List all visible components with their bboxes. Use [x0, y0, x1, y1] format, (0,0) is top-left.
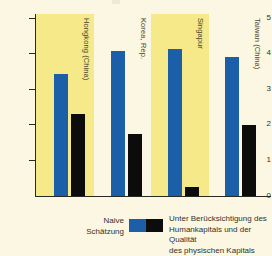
y-tick-mark-2: [29, 124, 35, 125]
y-tick-mark-1: [29, 160, 35, 161]
bar-singapur-adjusted: [185, 187, 199, 196]
legend-label-naive-line-2: Schätzung: [52, 227, 124, 238]
bar-taiwan-adjusted: [242, 125, 256, 196]
legend-label-adjusted-line-1: Unter Berücksichtigung des: [169, 214, 271, 225]
x-axis-line: [35, 196, 271, 197]
y-tick-label-3: 3: [249, 85, 271, 93]
legend-swatch-adjusted: [146, 219, 163, 232]
bar-singapur-naive: [168, 49, 182, 196]
bar-hongkong-adjusted: [71, 114, 85, 196]
y-tick-mark-4: [29, 53, 35, 54]
bar-hongkong-naive: [54, 74, 68, 196]
y-tick-mark-3: [29, 89, 35, 90]
legend-swatch-naive: [129, 219, 146, 232]
bar-korea-adjusted: [128, 134, 142, 196]
bar-korea-naive: [111, 51, 125, 196]
top-edge-clip-artifact: [112, 0, 120, 4]
category-label-hongkong: Hongkong (China): [82, 18, 91, 80]
legend-label-naive: Naive Schätzung: [52, 216, 124, 237]
chart-legend: Naive Schätzung Unter Berücksichtigung d…: [0, 213, 271, 253]
y-axis-line: [35, 14, 36, 197]
legend-label-adjusted-line-3: des physischen Kapitals: [169, 246, 271, 256]
y-axis-title: Prozent: [0, 77, 1, 104]
legend-label-adjusted: Unter Berücksichtigung des Humankapitals…: [169, 214, 271, 256]
legend-label-naive-line-1: Naive: [52, 216, 124, 227]
y-tick-mark-5: [29, 18, 35, 19]
category-label-taiwan: Taiwan (China): [253, 18, 262, 69]
category-label-singapur: Singapur: [196, 18, 205, 49]
legend-label-adjusted-line-2: Humankapitals und der Qualität: [169, 225, 271, 246]
category-label-korea: Korea, Rep.: [139, 18, 148, 59]
bar-taiwan-naive: [225, 57, 239, 196]
